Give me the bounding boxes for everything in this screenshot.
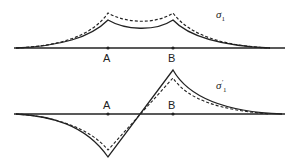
point-a-top [106, 46, 109, 49]
point-a-bottom [106, 112, 109, 115]
point-b-bottom [171, 112, 174, 115]
label-b-bottom: B [168, 99, 175, 111]
diagram-canvas [0, 0, 296, 164]
label-a-top: A [103, 52, 110, 64]
label-a-bottom: A [103, 99, 110, 111]
label-b-top: B [168, 52, 175, 64]
point-b-top [171, 46, 174, 49]
sigma1-label: σ1 [216, 8, 225, 23]
sigma1-prime-label: σ′1 [216, 78, 226, 94]
sigma1-dashed-curve [16, 13, 270, 48]
